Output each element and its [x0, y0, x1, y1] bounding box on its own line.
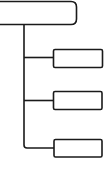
root-node [0, 2, 77, 25]
trunk-connector [24, 25, 54, 149]
child-node-3 [54, 140, 102, 158]
child-node-2 [54, 92, 103, 110]
tree-diagram [0, 0, 112, 174]
child-node-1 [54, 50, 103, 68]
